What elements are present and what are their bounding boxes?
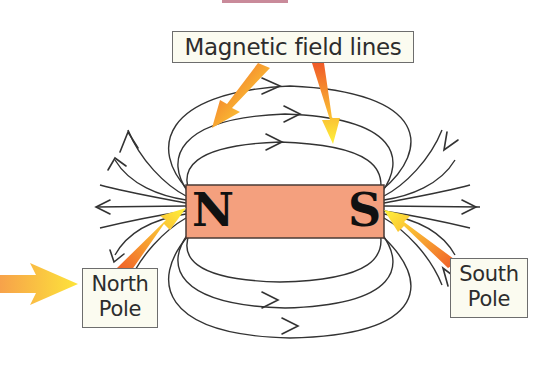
south-label-line2: Pole <box>451 287 527 312</box>
south-pole-letter: S <box>348 187 381 233</box>
arrow-to-south-pole <box>384 210 458 268</box>
south-label-line1: South <box>451 262 527 287</box>
north-label-line1: North <box>83 272 157 297</box>
field-lines-label-text: Magnetic field lines <box>184 34 401 60</box>
arrow-to-north-pole <box>117 208 186 274</box>
north-pole-label: North Pole <box>82 268 158 328</box>
arrow-to-top-line-right <box>312 63 340 144</box>
north-label-line2: Pole <box>83 297 157 322</box>
south-pole-label: South Pole <box>450 258 528 318</box>
magnetic-field-lines-label: Magnetic field lines <box>172 31 414 63</box>
north-pole-letter: N <box>192 187 234 233</box>
arrow-from-left-edge <box>0 263 78 305</box>
